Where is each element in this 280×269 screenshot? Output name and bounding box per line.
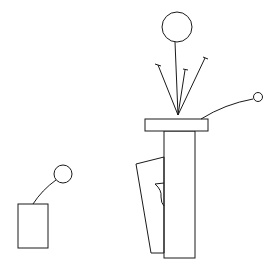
platform bbox=[145, 119, 208, 131]
large-head-circle bbox=[162, 12, 192, 42]
fan-lines bbox=[155, 57, 208, 115]
small-head-circle bbox=[54, 165, 72, 183]
head-stem bbox=[175, 42, 178, 115]
small-box bbox=[18, 204, 48, 248]
small-figure bbox=[18, 165, 72, 248]
line-drawing bbox=[0, 0, 280, 269]
fan-line-cap bbox=[203, 57, 208, 59]
column bbox=[164, 131, 195, 258]
large-figure bbox=[136, 12, 263, 258]
fan-line-cap bbox=[183, 69, 188, 70]
arm-curve bbox=[201, 99, 253, 119]
tilted-panel bbox=[136, 157, 164, 253]
fan-line bbox=[158, 65, 178, 115]
small-neck-curve bbox=[33, 180, 56, 204]
hand-circle bbox=[254, 93, 263, 102]
